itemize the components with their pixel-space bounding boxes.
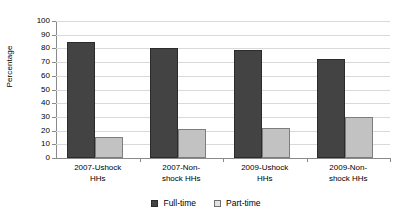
x-axis-category-label-line: HHs — [56, 174, 140, 185]
bar-part-time — [262, 128, 290, 158]
legend-item[interactable]: Full-time — [151, 199, 196, 208]
x-axis-category-label: 2007-Non-shock HHs — [140, 163, 224, 184]
bar-part-time — [95, 137, 123, 158]
gridline — [56, 48, 390, 49]
y-axis-tick-label: 0 — [20, 154, 50, 162]
x-axis-tick — [140, 158, 141, 162]
x-axis-category-label: 2009-Non-shock HHs — [307, 163, 391, 184]
bar-full-time — [234, 50, 262, 158]
x-axis-category-label-line: 2009-Non- — [307, 163, 391, 174]
x-axis-category-label: 2007-UshockHHs — [56, 163, 140, 184]
gridline — [56, 35, 390, 36]
x-axis-category-label-line: 2007-Ushock — [56, 163, 140, 174]
bar-chart: Percentage 1009080706050403020100 2007-U… — [0, 0, 412, 224]
y-axis-tick-label: 50 — [20, 86, 50, 94]
y-axis-tick-label: 60 — [20, 72, 50, 80]
legend-item-label: Full-time — [163, 199, 196, 208]
x-axis-tick — [307, 158, 308, 162]
bar-full-time — [317, 59, 345, 158]
x-axis-tick — [223, 158, 224, 162]
y-axis-tick-label: 100 — [20, 17, 50, 25]
bar-part-time — [345, 117, 373, 158]
chart-legend: Full-timePart-time — [0, 199, 412, 208]
y-axis-title: Percentage — [5, 34, 14, 100]
y-axis-tick-label: 40 — [20, 99, 50, 107]
x-axis-category-label-line: shock HHs — [140, 174, 224, 185]
bar-full-time — [150, 48, 178, 158]
x-axis-category-label-line: HHs — [223, 174, 307, 185]
bar-full-time — [67, 42, 95, 158]
legend-item[interactable]: Part-time — [214, 199, 260, 208]
light-square-swatch — [214, 200, 221, 207]
x-axis-category-label-line: 2007-Non- — [140, 163, 224, 174]
y-axis-tick-labels: 1009080706050403020100 — [18, 0, 50, 224]
y-axis-tick-label: 70 — [20, 58, 50, 66]
x-axis-category-label: 2009-UshockHHs — [223, 163, 307, 184]
y-axis-tick-label: 80 — [20, 44, 50, 52]
gridline — [56, 21, 390, 22]
plot-area — [56, 21, 390, 158]
legend-item-label: Part-time — [226, 199, 260, 208]
x-axis-tick — [390, 158, 391, 162]
bar-part-time — [178, 129, 206, 158]
dark-square-swatch — [151, 200, 158, 207]
y-axis-tick-label: 20 — [20, 127, 50, 135]
x-axis-category-label-line: shock HHs — [307, 174, 391, 185]
y-axis-tick-label: 10 — [20, 140, 50, 148]
x-axis-category-label-line: 2009-Ushock — [223, 163, 307, 174]
y-axis-tick-label: 30 — [20, 113, 50, 121]
y-axis-tick-label: 90 — [20, 31, 50, 39]
